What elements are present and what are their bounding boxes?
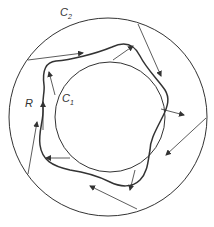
wavy-closed-curve — [40, 44, 168, 186]
label-c2: C2 — [60, 6, 72, 20]
label-c1: C1 — [62, 92, 74, 106]
annulus-diagram — [0, 0, 214, 227]
label-c1-sub: 1 — [70, 99, 74, 106]
outer-circle-c2 — [9, 18, 207, 216]
label-c2-main: C — [60, 6, 68, 18]
label-r-text: R — [25, 97, 33, 109]
label-c1-main: C — [62, 92, 70, 104]
label-c2-sub: 2 — [68, 13, 72, 20]
label-region-r: R — [25, 97, 33, 109]
